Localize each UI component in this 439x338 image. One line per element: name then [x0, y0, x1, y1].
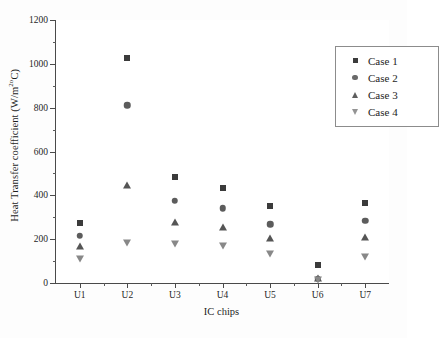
data-point: [171, 219, 179, 226]
y-axis-title: Heat Transfer coefficient (W/m2oC): [7, 69, 20, 222]
y-axis-title-tail: C): [8, 69, 19, 80]
y-tick-major: [50, 195, 56, 196]
y-tick-major: [50, 283, 56, 284]
legend-item: Case 1: [342, 52, 432, 69]
x-tick-major: [80, 283, 81, 288]
y-axis-title-container: Heat Transfer coefficient (W/m2oC): [0, 0, 26, 290]
y-tick-minor: [53, 217, 57, 218]
y-axis-title-exponent: 2: [7, 83, 15, 87]
x-tick-label: U6: [312, 290, 324, 300]
y-tick-minor: [53, 173, 57, 174]
y-tick-minor: [53, 261, 57, 262]
legend-item: Case 4: [342, 103, 432, 120]
legend: Case 1 Case 2 Case 3 Case 4: [335, 46, 439, 127]
plot-area: 020040060080010001200 U1U2U3U4U5U6U7 Cas…: [55, 20, 389, 284]
legend-marker-circle: [342, 75, 368, 81]
x-tick-minor: [341, 283, 342, 286]
data-point: [77, 220, 83, 226]
y-tick-label: 200: [34, 234, 48, 244]
y-tick-label: 400: [34, 190, 48, 200]
data-point: [172, 198, 179, 205]
data-point: [315, 262, 321, 268]
data-point: [266, 235, 274, 242]
x-tick-label: U3: [169, 290, 181, 300]
x-tick-major: [223, 283, 224, 288]
data-point: [362, 218, 369, 225]
legend-label: Case 3: [368, 89, 398, 101]
x-tick-major: [270, 283, 271, 288]
x-tick-major: [365, 283, 366, 288]
y-tick-label: 600: [34, 147, 48, 157]
y-tick-major: [50, 152, 56, 153]
y-tick-major: [50, 64, 56, 65]
data-point: [361, 234, 369, 241]
y-tick-label: 800: [34, 103, 48, 113]
y-tick-label: 1000: [29, 59, 48, 69]
data-point: [361, 253, 369, 260]
y-tick-minor: [53, 42, 57, 43]
legend-label: Case 2: [368, 72, 398, 84]
data-point: [76, 243, 84, 250]
y-tick-major: [50, 108, 56, 109]
data-point: [219, 205, 226, 212]
y-axis-title-main: Heat Transfer coefficient (W/m: [8, 87, 19, 222]
x-tick-minor: [151, 283, 152, 286]
x-axis-title: IC chips: [55, 306, 388, 317]
legend-item: Case 3: [342, 86, 432, 103]
data-point: [124, 102, 131, 109]
legend-label: Case 1: [368, 55, 398, 67]
data-point: [314, 277, 322, 284]
data-point: [362, 200, 368, 206]
x-tick-minor: [246, 283, 247, 286]
legend-marker-square: [342, 58, 368, 63]
data-point: [123, 182, 131, 189]
y-tick-major: [50, 20, 56, 21]
x-tick-label: U5: [264, 290, 276, 300]
x-tick-label: U7: [359, 290, 371, 300]
x-tick-minor: [294, 283, 295, 286]
y-tick-minor: [53, 86, 57, 87]
x-tick-major: [175, 283, 176, 288]
y-tick-minor: [53, 130, 57, 131]
y-tick-major: [50, 239, 56, 240]
legend-marker-triangle-down: [342, 109, 368, 115]
x-tick-label: U2: [122, 290, 134, 300]
y-axis-title-degree: o: [7, 79, 15, 83]
x-tick-minor: [199, 283, 200, 286]
data-point: [267, 203, 273, 209]
data-point: [267, 221, 274, 228]
data-point: [77, 233, 84, 240]
x-tick-major: [127, 283, 128, 288]
data-point: [172, 174, 178, 180]
data-point: [219, 243, 227, 250]
data-point: [219, 223, 227, 230]
legend-marker-triangle-up: [342, 92, 368, 98]
data-point: [266, 250, 274, 257]
data-point: [76, 256, 84, 263]
data-point: [171, 240, 179, 247]
x-tick-label: U1: [74, 290, 86, 300]
y-tick-label: 1200: [29, 15, 48, 25]
data-point: [123, 239, 131, 246]
x-tick-label: U4: [217, 290, 229, 300]
legend-item: Case 2: [342, 69, 432, 86]
data-point: [124, 55, 130, 61]
legend-label: Case 4: [368, 106, 398, 118]
data-point: [220, 185, 226, 191]
y-tick-label: 0: [43, 278, 48, 288]
x-tick-minor: [104, 283, 105, 286]
